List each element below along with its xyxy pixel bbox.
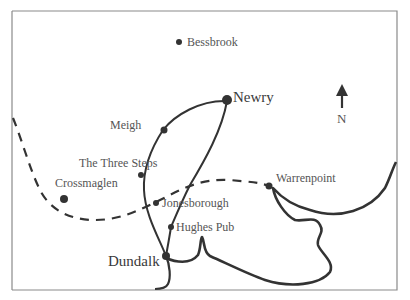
dot-crossmaglen	[60, 195, 68, 203]
label-jonesborough: Jonesborough	[162, 197, 229, 209]
label-warrenpoint: Warrenpoint	[276, 172, 336, 184]
label-three-steps: The Three Steps	[79, 157, 157, 169]
label-newry: Newry	[233, 90, 274, 105]
label-crossmaglen: Crossmaglen	[55, 177, 118, 189]
dot-meigh	[161, 127, 168, 134]
compass-label: N	[337, 112, 346, 125]
dot-bessbrook	[176, 39, 182, 45]
dot-jonesborough	[153, 200, 159, 206]
dot-three-steps	[138, 172, 144, 178]
label-dundalk: Dundalk	[108, 254, 160, 269]
dot-newry	[222, 95, 232, 105]
label-meigh: Meigh	[110, 119, 141, 131]
dot-hughes-pub	[168, 224, 174, 230]
dot-warrenpoint	[266, 183, 273, 190]
label-hughes-pub: Hughes Pub	[176, 221, 234, 233]
label-bessbrook: Bessbrook	[187, 36, 238, 48]
dot-dundalk	[162, 252, 170, 260]
north-arrow-icon	[336, 84, 348, 108]
